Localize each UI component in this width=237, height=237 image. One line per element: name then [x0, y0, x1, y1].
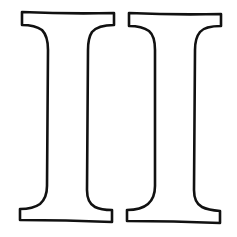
letter-i-right	[127, 13, 221, 223]
letter-i-left	[20, 12, 114, 222]
outlined-letters-figure: II	[0, 0, 237, 237]
